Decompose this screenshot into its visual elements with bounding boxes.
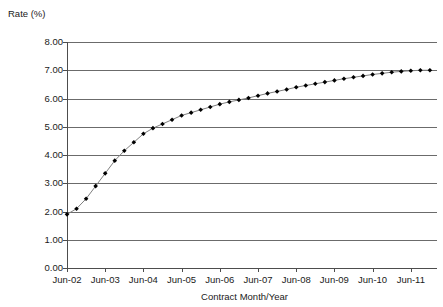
data-point-marker (151, 126, 156, 131)
data-point-marker (246, 96, 251, 101)
data-point-marker (256, 93, 261, 98)
x-axis-title: Contract Month/Year (0, 291, 443, 302)
data-point-marker (237, 98, 242, 103)
data-point-marker (370, 72, 375, 77)
data-point-marker (189, 110, 194, 115)
data-point-marker (275, 89, 280, 94)
data-point-marker (313, 82, 318, 87)
x-axis-title-label: Contract Month/Year (155, 291, 288, 302)
data-point-marker (399, 69, 404, 74)
data-point-marker (227, 100, 232, 105)
data-point-marker (323, 80, 328, 85)
data-point-marker (265, 91, 270, 96)
data-point-marker (342, 76, 347, 81)
data-point-marker (198, 108, 203, 113)
data-point-marker (389, 70, 394, 75)
data-point-marker (179, 113, 184, 118)
data-point-marker (351, 75, 356, 80)
data-point-marker (418, 68, 423, 73)
data-point-marker (380, 71, 385, 76)
data-point-marker (332, 78, 337, 83)
data-point-marker (428, 68, 433, 73)
series-line-rate (0, 0, 443, 307)
data-point-marker (218, 102, 223, 107)
rate-chart: Rate (%) 0.001.002.003.004.005.006.007.0… (0, 0, 443, 307)
data-point-marker (284, 87, 289, 92)
data-point-marker (409, 69, 414, 74)
data-point-marker (303, 83, 308, 88)
data-point-marker (170, 117, 175, 122)
data-point-marker (65, 212, 70, 217)
data-point-marker (361, 74, 366, 79)
data-point-marker (208, 105, 213, 110)
data-point-marker (294, 85, 299, 90)
data-point-marker (160, 122, 165, 127)
